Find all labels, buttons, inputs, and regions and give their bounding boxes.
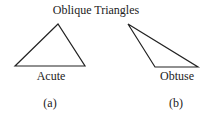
caption-a: (a) [43,97,56,109]
acute-label: Acute [37,70,66,82]
acute-triangle [15,24,85,66]
obtuse-triangle [128,24,198,67]
obtuse-label: Obtuse [160,70,194,82]
caption-b: (b) [169,97,183,109]
